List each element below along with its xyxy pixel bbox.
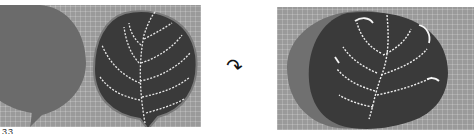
left-photo [0, 5, 201, 127]
curved-arrow-icon: ↷ [224, 53, 241, 79]
leaves-before-illustration [0, 5, 201, 127]
right-photo [277, 7, 474, 130]
leaves-after-illustration [277, 7, 474, 130]
caption-fragment: 33 [2, 128, 14, 134]
